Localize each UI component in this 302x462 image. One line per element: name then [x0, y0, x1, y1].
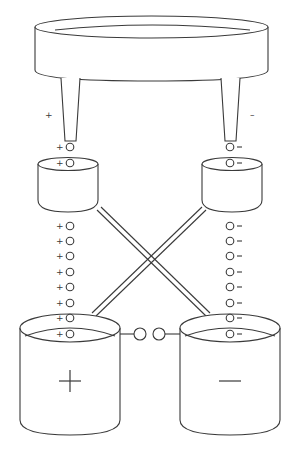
- svg-text:+: +: [56, 282, 64, 292]
- right-ion: [226, 252, 242, 260]
- svg-text:+: +: [56, 221, 64, 231]
- svg-text:+: +: [56, 251, 64, 261]
- svg-text:+: +: [56, 236, 64, 246]
- right-ion: [226, 222, 242, 230]
- left-ion: +: [56, 142, 74, 152]
- left-ion: +: [56, 221, 74, 231]
- svg-text:+: +: [56, 158, 64, 168]
- right-ion: [226, 299, 242, 307]
- left-dropper-sign: +: [45, 110, 53, 120]
- left-dropper: [61, 78, 80, 141]
- svg-text:+: +: [56, 329, 64, 339]
- right-ion: [226, 283, 242, 291]
- right-ion: [226, 143, 242, 151]
- svg-text:+: +: [56, 267, 64, 277]
- left-ion: +: [56, 282, 74, 292]
- left-ion: +: [56, 251, 74, 261]
- right-dropper-sign: –: [250, 110, 255, 120]
- salt-bridge: [120, 328, 180, 340]
- cross-wires: [92, 207, 210, 316]
- svg-text:+: +: [56, 313, 64, 323]
- left-ion: +: [56, 267, 74, 277]
- right-dropper: [221, 78, 240, 141]
- svg-text:+: +: [56, 298, 64, 308]
- right-ion: [226, 268, 242, 276]
- left-ion: +: [56, 298, 74, 308]
- diagram-canvas: + – +: [0, 0, 302, 462]
- right-ion: [226, 237, 242, 245]
- top-reservoir: [35, 16, 268, 81]
- left-ion: +: [56, 236, 74, 246]
- svg-text:+: +: [56, 142, 64, 152]
